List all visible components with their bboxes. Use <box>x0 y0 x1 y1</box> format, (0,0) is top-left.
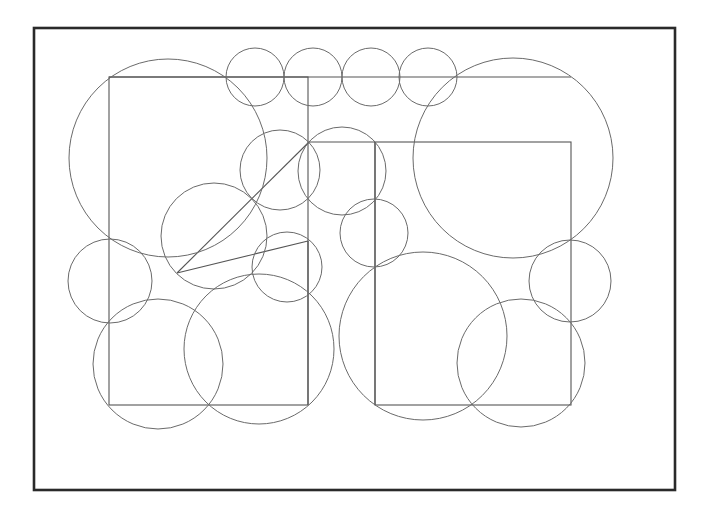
diagram-canvas <box>0 0 708 511</box>
